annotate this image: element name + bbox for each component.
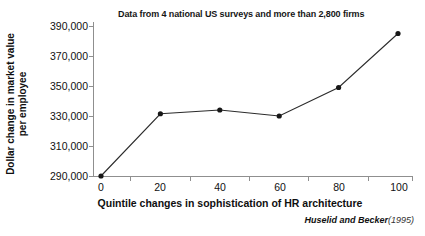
data-point-marker (277, 113, 282, 118)
data-point-marker (217, 107, 222, 112)
chart-figure: Data from 4 national US surveys and more… (0, 0, 425, 236)
data-point-marker (98, 173, 103, 178)
data-series (98, 31, 400, 179)
axes (89, 22, 412, 181)
source-citation: Huselid and Becker(1995) (304, 215, 414, 225)
source-year: (1995) (388, 215, 414, 225)
data-point-marker (395, 31, 400, 36)
data-point-marker (336, 85, 341, 90)
source-authors: Huselid and Becker (304, 215, 388, 225)
series-line (101, 34, 398, 177)
data-point-marker (158, 111, 163, 116)
x-axis-label: Quintile changes in sophistication of HR… (60, 197, 400, 209)
